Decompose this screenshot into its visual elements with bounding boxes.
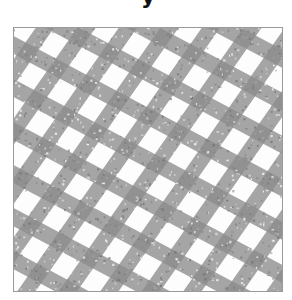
- title-fragment: y: [141, 0, 155, 8]
- lattice-pattern: [14, 28, 282, 291]
- lattice-image: [13, 27, 283, 292]
